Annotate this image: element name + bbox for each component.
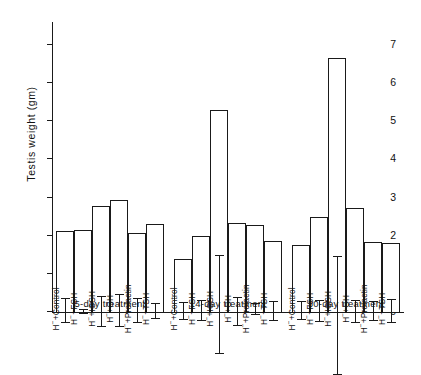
y-tick-mark xyxy=(47,120,52,121)
y-tick-mark xyxy=(47,273,52,274)
error-bar-cap-bottom xyxy=(215,353,224,354)
bar-group: H−+ControlH−+FSHH−+ICSHH−+GHH−+Prolactin… xyxy=(56,22,164,312)
plot-area: 01234567 H−+ControlH−+FSHH−+ICSHH−+GHH−+… xyxy=(52,22,404,312)
error-bar-cap-top xyxy=(333,256,342,257)
bar-group: H−+ControlH−+FSHH−+ICSHH−+GHH−+Prolactin… xyxy=(292,22,400,312)
y-tick-mark xyxy=(47,197,52,198)
y-tick-mark xyxy=(47,82,52,83)
group-caption: 5-day treatment xyxy=(56,298,164,309)
group-caption: 30-day treatment xyxy=(292,298,400,309)
y-axis-line xyxy=(52,22,53,312)
y-tick-mark xyxy=(47,44,52,45)
y-tick-mark xyxy=(47,235,52,236)
bar[interactable]: H−+ICSH xyxy=(328,58,346,312)
y-tick-mark xyxy=(47,158,52,159)
bar[interactable]: H−+ICSH xyxy=(210,110,228,312)
bar-group: H−+ControlH−+FSHH−+ICSHH−+GHH−+Prolactin… xyxy=(174,22,282,312)
group-caption: 14-day treatment xyxy=(174,298,282,309)
y-axis-label: Testis weight (gm) xyxy=(25,59,37,209)
error-bar-cap-top xyxy=(215,255,224,256)
